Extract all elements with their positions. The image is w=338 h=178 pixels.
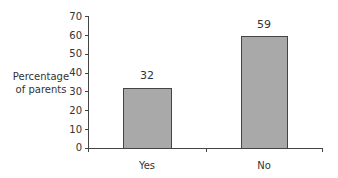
bar-chart: Percentage of parents 0 10 20 30 40 50 6…	[0, 0, 338, 178]
y-tick	[85, 16, 89, 17]
bar-value-label-no: 59	[244, 19, 284, 30]
y-tick	[85, 110, 89, 111]
x-tick	[206, 148, 207, 152]
y-tick-label: 10	[62, 124, 82, 135]
x-category-label-no: No	[244, 160, 284, 171]
y-tick-label: 70	[62, 11, 82, 22]
y-tick	[85, 73, 89, 74]
y-tick-label: 40	[62, 67, 82, 78]
y-tick	[85, 91, 89, 92]
y-tick	[85, 129, 89, 130]
y-tick-label: 0	[62, 142, 82, 153]
y-tick-label: 50	[62, 48, 82, 59]
y-tick-label: 30	[62, 86, 82, 97]
bar-yes	[123, 88, 172, 149]
bar-no	[241, 36, 288, 149]
y-tick	[85, 54, 89, 55]
y-tick	[85, 35, 89, 36]
x-category-label-yes: Yes	[127, 160, 167, 171]
x-tick	[88, 148, 89, 152]
y-tick-label: 60	[62, 30, 82, 41]
y-tick-label: 20	[62, 105, 82, 116]
bar-value-label-yes: 32	[127, 70, 167, 81]
x-tick	[322, 148, 323, 152]
